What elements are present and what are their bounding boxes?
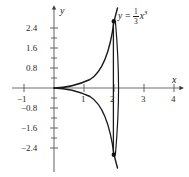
curve-cubic-positive bbox=[54, 8, 118, 88]
vertex-dot-bottom bbox=[112, 153, 116, 157]
x-tick-label-2: 2 bbox=[110, 95, 115, 104]
equation-exponent: 3 bbox=[144, 10, 147, 17]
x-tick-label-1: 1 bbox=[81, 95, 86, 104]
graph-figure: 2.4 1.6 0.8 −0.8 −1.6 −2.4 −1 1 2 3 4 y … bbox=[0, 0, 189, 177]
equation-lhs: y = bbox=[118, 12, 131, 22]
y-tick-label--1.6: −1.6 bbox=[21, 124, 37, 133]
y-tick-label--0.8: −0.8 bbox=[21, 104, 37, 113]
fraction-denominator: 3 bbox=[133, 17, 139, 25]
y-axis-label: y bbox=[60, 6, 64, 16]
x-tick-label--1: −1 bbox=[17, 95, 27, 104]
fraction-numerator: 1 bbox=[133, 8, 139, 16]
fraction-one-third: 1 3 bbox=[133, 8, 139, 25]
curve-cubic-negative bbox=[54, 88, 118, 168]
x-tick-label-3: 3 bbox=[141, 95, 146, 104]
y-tick-label-2.4: 2.4 bbox=[26, 24, 37, 33]
vertex-dot-top bbox=[112, 19, 116, 23]
y-tick-label--2.4: −2.4 bbox=[21, 144, 37, 153]
y-tick-label-1.6: 1.6 bbox=[26, 44, 37, 53]
x-axis-label: x bbox=[172, 75, 176, 85]
y-tick-label-0.8: 0.8 bbox=[26, 64, 37, 73]
curve-equation-label: y = 1 3 x 3 bbox=[118, 8, 147, 25]
x-tick-label-4: 4 bbox=[171, 95, 176, 104]
